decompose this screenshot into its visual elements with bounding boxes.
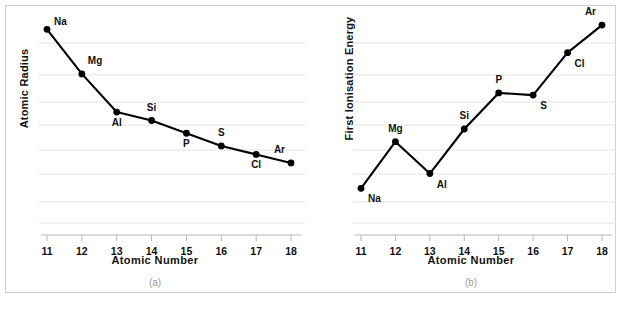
svg-text:Ar: Ar <box>585 6 596 17</box>
figure-periodic-trends: 1112131415161718NaMgAlSiPSClAr Atomic Ra… <box>0 0 624 309</box>
svg-text:Na: Na <box>368 193 381 204</box>
svg-text:Cl: Cl <box>575 58 585 69</box>
svg-text:Ar: Ar <box>274 144 285 155</box>
chart-b-caption: (b) <box>321 277 621 288</box>
svg-text:Si: Si <box>460 110 470 121</box>
svg-text:P: P <box>495 74 502 85</box>
chart-b-x-axis-label: Atomic Number <box>321 254 621 266</box>
svg-text:S: S <box>540 100 547 111</box>
svg-text:Mg: Mg <box>388 123 402 134</box>
chart-a-x-axis-label: Atomic Number <box>5 254 305 266</box>
chart-a-y-axis-label: Atomic Radius <box>19 34 30 144</box>
svg-text:Na: Na <box>54 16 67 27</box>
chart-b-y-axis-label: First Ionisation Energy <box>344 0 355 159</box>
svg-text:Si: Si <box>147 102 157 113</box>
svg-text:S: S <box>218 127 225 138</box>
svg-text:Al: Al <box>437 179 447 190</box>
svg-text:Al: Al <box>112 117 122 128</box>
svg-text:Mg: Mg <box>88 55 102 66</box>
chart-a-caption: (a) <box>5 277 305 288</box>
chart-b-plot: 1112131415161718NaMgAlSiPSClAr <box>311 5 623 293</box>
chart-panel-a: 1112131415161718NaMgAlSiPSClAr Atomic Ra… <box>5 5 317 293</box>
svg-text:Cl: Cl <box>251 159 261 170</box>
svg-text:P: P <box>183 138 190 149</box>
chart-panel-b: 1112131415161718NaMgAlSiPSClAr First Ion… <box>311 5 623 293</box>
chart-a-plot: 1112131415161718NaMgAlSiPSClAr <box>5 5 317 293</box>
